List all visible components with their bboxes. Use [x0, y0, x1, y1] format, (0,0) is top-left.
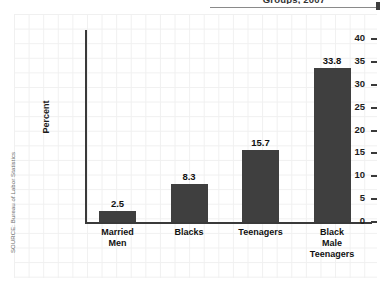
category-label-line: Black: [297, 227, 368, 238]
bar-group: 33.8: [314, 30, 351, 222]
category-label-line: Men: [82, 238, 153, 249]
bar-series: 2.58.315.733.8: [85, 30, 372, 222]
category-label-line: Married: [82, 227, 153, 238]
title-underline-rule: [210, 7, 380, 8]
bar: [242, 150, 279, 222]
bar: [314, 68, 351, 223]
source-note: SOURCE: Bureau of Labor Statistics: [10, 133, 16, 253]
chart-title-clipped: Groups, 2007: [210, 0, 378, 4]
bar: [171, 184, 208, 222]
category-label: BlackMaleTeenagers: [297, 227, 368, 260]
category-label-line: Blacks: [154, 227, 225, 238]
y-axis-label: Percent: [41, 77, 51, 157]
bar-group: 8.3: [171, 30, 208, 222]
bar-group: 2.5: [99, 30, 136, 222]
bar-value-label: 33.8: [302, 55, 363, 66]
category-label-line: Teenagers: [225, 227, 296, 238]
bar-value-label: 8.3: [159, 171, 220, 182]
category-label: Blacks: [154, 227, 225, 238]
category-label-line: Male: [297, 238, 368, 249]
bar-value-label: 15.7: [230, 137, 291, 148]
chart-screenshot: Groups, 2007 SOURCE: Bureau of Labor Sta…: [0, 0, 391, 292]
title-rule-end-cap: [376, 2, 380, 10]
bar-value-label: 2.5: [87, 198, 148, 209]
category-label-line: Teenagers: [297, 249, 368, 260]
bar-group: 15.7: [242, 30, 279, 222]
category-label: Teenagers: [225, 227, 296, 238]
category-label: MarriedMen: [82, 227, 153, 249]
bar: [99, 211, 136, 222]
